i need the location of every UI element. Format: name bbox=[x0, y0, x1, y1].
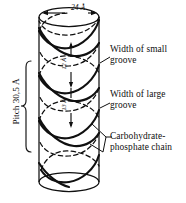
pitch-label: Pitch 30,5 Å bbox=[11, 64, 22, 138]
small-groove-callout-line1: Width of small bbox=[110, 44, 167, 54]
small-groove-callout-line2: groove bbox=[110, 55, 167, 66]
chain-callout-line2: phosphate chain bbox=[110, 142, 172, 153]
large-groove-callout-line2: groove bbox=[110, 100, 166, 111]
chain-callout-line1: Carbohydrate- bbox=[110, 131, 165, 141]
double-arrow-icon bbox=[42, 11, 97, 15]
small-groove-callout: Width of small groove bbox=[110, 44, 167, 66]
large-groove-value-label: 13 Å bbox=[60, 92, 67, 118]
large-groove-dimension-arrow bbox=[69, 88, 73, 128]
leader-line-icon bbox=[90, 57, 112, 152]
carbohydrate-phosphate-chain-callout: Carbohydrate- phosphate chain bbox=[110, 131, 172, 153]
small-groove-value-label: 12 Å bbox=[60, 51, 67, 77]
large-groove-callout: Width of large groove bbox=[110, 89, 166, 111]
dna-helix-figure: 24 Å Pitch 30,5 Å 12 Å 13 Å Width of sma… bbox=[0, 0, 186, 203]
diameter-label: 24 Å bbox=[71, 4, 85, 13]
cylinder-top-ellipse bbox=[39, 8, 99, 27]
large-groove-callout-line1: Width of large bbox=[110, 89, 166, 99]
brace-icon bbox=[21, 61, 31, 152]
